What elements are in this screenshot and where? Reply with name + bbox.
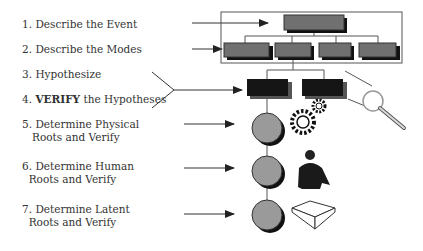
event-box bbox=[284, 15, 344, 30]
mode-boxes bbox=[224, 43, 400, 60]
merge-bracket bbox=[152, 72, 174, 108]
gears-icon bbox=[292, 100, 325, 133]
person-icon bbox=[298, 150, 330, 189]
root-circles bbox=[252, 113, 285, 233]
slab-icon bbox=[292, 201, 335, 229]
diagram-graphics bbox=[0, 0, 423, 251]
magnifier-icon bbox=[363, 91, 404, 128]
hypothesis-boxes bbox=[247, 79, 347, 99]
